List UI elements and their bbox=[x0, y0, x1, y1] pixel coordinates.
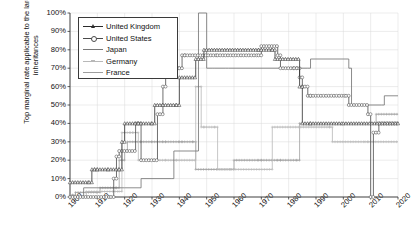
legend-item-label: Germany bbox=[106, 57, 137, 66]
legend-swatch-icon bbox=[83, 33, 103, 43]
chart-canvas bbox=[0, 0, 415, 243]
legend-item-germany[interactable]: Germany bbox=[83, 56, 173, 68]
chart-figure: Top marginal rate applicable to the larg… bbox=[0, 0, 415, 243]
legend-item-japan[interactable]: Japan bbox=[83, 44, 173, 56]
legend-item-label: United States bbox=[106, 34, 152, 43]
legend-swatch-icon bbox=[83, 68, 103, 78]
legend-item-france[interactable]: France bbox=[83, 67, 173, 79]
legend-marker-plus-icon bbox=[91, 60, 96, 61]
chart-legend: United KingdomUnited StatesJapanGermanyF… bbox=[78, 17, 178, 79]
legend-item-label: France bbox=[106, 68, 130, 77]
legend-marker-triangle-icon bbox=[91, 24, 95, 28]
legend-marker-plus-icon bbox=[91, 72, 96, 73]
legend-item-united-states[interactable]: United States bbox=[83, 33, 173, 45]
legend-item-label: Japan bbox=[106, 45, 127, 54]
legend-swatch-icon bbox=[83, 22, 103, 32]
legend-swatch-icon bbox=[83, 45, 103, 55]
legend-item-label: United Kingdom bbox=[106, 22, 160, 31]
series-france bbox=[69, 113, 399, 197]
legend-swatch-icon bbox=[83, 56, 103, 66]
legend-marker-circle-icon bbox=[91, 36, 97, 42]
legend-item-united-kingdom[interactable]: United Kingdom bbox=[83, 21, 173, 33]
